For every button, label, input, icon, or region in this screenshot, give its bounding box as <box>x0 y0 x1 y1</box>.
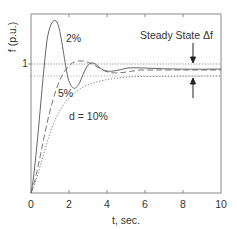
svg-text:6: 6 <box>142 198 148 210</box>
svg-text:2: 2 <box>66 198 72 210</box>
arrow-up-icon <box>191 78 196 84</box>
svg-text:8: 8 <box>180 198 186 210</box>
svg-text:10: 10 <box>215 198 227 210</box>
y-axis-label: f (p.u.) <box>6 22 18 52</box>
label-2pct: 2% <box>66 32 81 44</box>
label-steady-state: Steady State Δf <box>140 29 213 41</box>
frequency-response-chart: 2% 5% d = 10% Steady State Δf 1 0 2 4 6 … <box>0 0 237 229</box>
x-axis-label: t, sec. <box>112 214 140 226</box>
label-5pct: 5% <box>58 87 73 99</box>
svg-text:4: 4 <box>104 198 110 210</box>
arrow-down-icon <box>191 57 196 63</box>
label-10pct: d = 10% <box>69 110 108 122</box>
svg-text:0: 0 <box>28 198 34 210</box>
y-tick-1: 1 <box>22 58 28 69</box>
x-tick-labels: 0 2 4 6 8 10 <box>28 198 227 210</box>
